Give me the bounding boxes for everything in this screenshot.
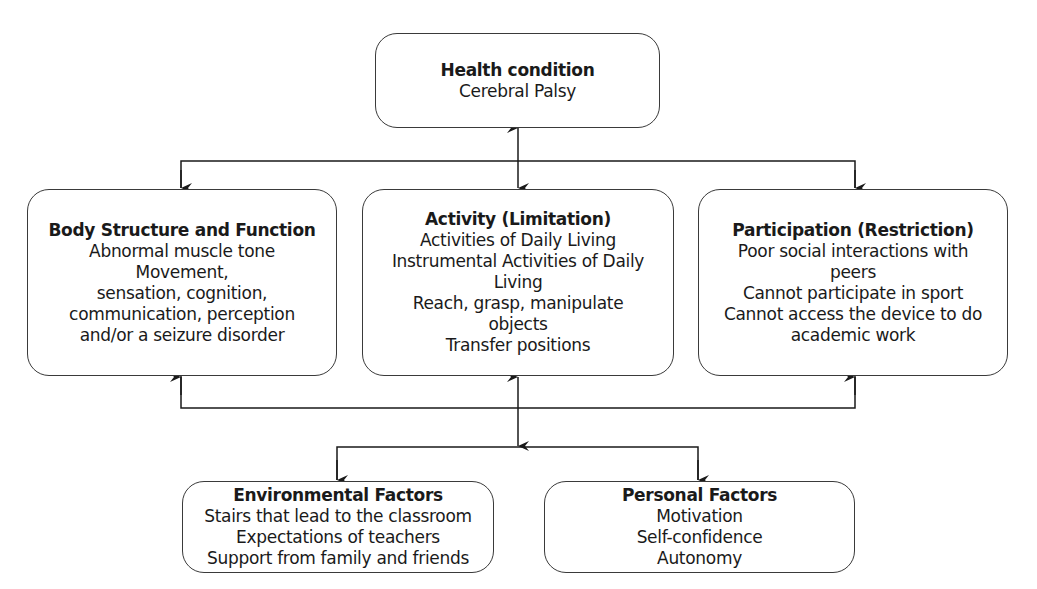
body-structure-box: Body Structure and Function Abnormal mus… xyxy=(27,189,337,376)
body-structure-line: Abnormal muscle tone xyxy=(89,241,275,262)
environmental-line: Support from family and friends xyxy=(207,548,469,569)
personal-line: Autonomy xyxy=(657,548,742,569)
body-structure-title: Body Structure and Function xyxy=(48,220,315,241)
health-condition-box: Health condition Cerebral Palsy xyxy=(375,33,660,128)
personal-title: Personal Factors xyxy=(622,485,777,506)
participation-line: Poor social interactions with xyxy=(738,241,968,262)
body-structure-line: communication, perception xyxy=(69,304,295,325)
body-structure-line: and/or a seizure disorder xyxy=(80,325,285,346)
activity-line: Instrumental Activities of Daily xyxy=(392,251,644,272)
activity-line: objects xyxy=(488,314,547,335)
personal-line: Motivation xyxy=(656,506,743,527)
environmental-line: Stairs that lead to the classroom xyxy=(204,506,472,527)
activity-line: Living xyxy=(494,272,543,293)
activity-line: Activities of Daily Living xyxy=(420,230,616,251)
body-structure-line: Movement, xyxy=(136,262,229,283)
participation-line: Cannot access the device to do xyxy=(724,304,982,325)
activity-line: Reach, grasp, manipulate xyxy=(413,293,624,314)
environmental-factors-box: Environmental Factors Stairs that lead t… xyxy=(182,481,494,573)
participation-line: peers xyxy=(830,262,876,283)
activity-title: Activity (Limitation) xyxy=(425,209,611,230)
personal-factors-box: Personal Factors Motivation Self-confide… xyxy=(544,481,855,573)
environmental-line: Expectations of teachers xyxy=(236,527,440,548)
environmental-title: Environmental Factors xyxy=(233,485,443,506)
health-condition-line: Cerebral Palsy xyxy=(459,81,576,102)
participation-line: Cannot participate in sport xyxy=(743,283,963,304)
participation-box: Participation (Restriction) Poor social … xyxy=(698,189,1008,376)
personal-line: Self-confidence xyxy=(637,527,763,548)
body-structure-line: sensation, cognition, xyxy=(97,283,267,304)
health-condition-title: Health condition xyxy=(441,60,595,81)
participation-line: academic work xyxy=(791,325,916,346)
activity-line: Transfer positions xyxy=(446,335,591,356)
activity-box: Activity (Limitation) Activities of Dail… xyxy=(362,189,674,376)
participation-title: Participation (Restriction) xyxy=(732,220,973,241)
